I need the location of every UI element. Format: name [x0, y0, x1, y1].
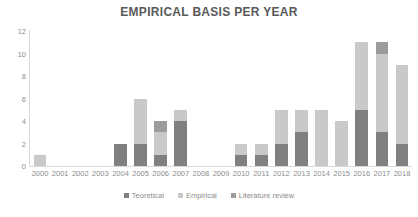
bars-layer — [30, 31, 412, 166]
x-tick-label: 2011 — [251, 169, 271, 178]
bar-segment[interactable] — [134, 99, 147, 144]
bar-slot — [70, 31, 90, 166]
bar-stack[interactable] — [355, 42, 368, 166]
bar-segment[interactable] — [174, 110, 187, 121]
x-tick-label: 2005 — [131, 169, 151, 178]
bar-slot — [110, 31, 130, 166]
y-tick-label: 2 — [2, 139, 26, 148]
bar-segment[interactable] — [235, 155, 248, 166]
bar-slot — [372, 31, 392, 166]
legend-swatch-icon — [178, 193, 183, 198]
bar-stack[interactable] — [255, 144, 268, 167]
legend-label: Literature review — [239, 191, 294, 200]
legend-item[interactable]: Empirical — [178, 191, 217, 200]
bar-segment[interactable] — [335, 121, 348, 166]
bar-stack[interactable] — [295, 110, 308, 166]
bar-segment[interactable] — [154, 121, 167, 132]
bar-segment[interactable] — [174, 121, 187, 166]
x-tick-label: 2006 — [151, 169, 171, 178]
bar-stack[interactable] — [34, 155, 47, 166]
legend-swatch-icon — [124, 193, 129, 198]
bar-slot — [131, 31, 151, 166]
bar-stack[interactable] — [235, 144, 248, 167]
x-axis-tick-labels: 2000200120022003200420052006200720082009… — [30, 169, 412, 178]
legend-item[interactable]: Literature review — [231, 191, 294, 200]
bar-stack[interactable] — [396, 65, 409, 166]
x-tick-label: 2003 — [90, 169, 110, 178]
y-tick-label: 4 — [2, 117, 26, 126]
bar-slot — [392, 31, 412, 166]
chart-container: EMPIRICAL BASIS PER YEAR 024681012 20002… — [0, 0, 418, 217]
x-tick-label: 2010 — [231, 169, 251, 178]
bar-slot — [211, 31, 231, 166]
bar-segment[interactable] — [235, 144, 248, 155]
x-tick-label: 2017 — [372, 169, 392, 178]
bar-slot — [171, 31, 191, 166]
bar-stack[interactable] — [114, 144, 127, 167]
bar-slot — [332, 31, 352, 166]
bar-slot — [291, 31, 311, 166]
bar-segment[interactable] — [376, 42, 389, 53]
bar-slot — [271, 31, 291, 166]
x-tick-label: 2014 — [312, 169, 332, 178]
bar-slot — [352, 31, 372, 166]
y-tick-label: 0 — [2, 162, 26, 171]
bar-segment[interactable] — [154, 132, 167, 155]
x-axis-line — [29, 166, 412, 167]
x-tick-label: 2018 — [392, 169, 412, 178]
bar-segment[interactable] — [355, 110, 368, 166]
bar-segment[interactable] — [275, 144, 288, 167]
x-tick-label: 2008 — [191, 169, 211, 178]
bar-segment[interactable] — [134, 144, 147, 167]
bar-slot — [231, 31, 251, 166]
legend-swatch-icon — [231, 193, 236, 198]
bar-slot — [251, 31, 271, 166]
x-tick-label: 2009 — [211, 169, 231, 178]
x-tick-label: 2016 — [352, 169, 372, 178]
y-tick-label: 8 — [2, 72, 26, 81]
y-axis-tick-labels: 024681012 — [0, 31, 26, 166]
legend-label: Empirical — [186, 191, 217, 200]
x-tick-label: 2015 — [332, 169, 352, 178]
bar-segment[interactable] — [396, 144, 409, 167]
bar-stack[interactable] — [376, 42, 389, 166]
bar-slot — [50, 31, 70, 166]
bar-stack[interactable] — [134, 99, 147, 167]
bar-segment[interactable] — [154, 155, 167, 166]
bar-segment[interactable] — [255, 155, 268, 166]
bar-slot — [191, 31, 211, 166]
x-tick-label: 2012 — [271, 169, 291, 178]
bar-slot — [90, 31, 110, 166]
bar-stack[interactable] — [275, 110, 288, 166]
bar-segment[interactable] — [315, 110, 328, 166]
bar-segment[interactable] — [355, 42, 368, 110]
bar-stack[interactable] — [154, 121, 167, 166]
bar-segment[interactable] — [295, 132, 308, 166]
chart-title: EMPIRICAL BASIS PER YEAR — [0, 5, 418, 19]
bar-segment[interactable] — [114, 144, 127, 167]
bar-segment[interactable] — [255, 144, 268, 155]
bar-slot — [30, 31, 50, 166]
x-tick-label: 2000 — [30, 169, 50, 178]
y-tick-label: 10 — [2, 49, 26, 58]
bar-stack[interactable] — [335, 121, 348, 166]
bar-slot — [151, 31, 171, 166]
x-tick-label: 2002 — [70, 169, 90, 178]
bar-slot — [312, 31, 332, 166]
y-tick-label: 12 — [2, 27, 26, 36]
x-tick-label: 2001 — [50, 169, 70, 178]
bar-segment[interactable] — [396, 65, 409, 144]
bar-segment[interactable] — [376, 54, 389, 133]
bar-segment[interactable] — [295, 110, 308, 133]
bar-segment[interactable] — [376, 132, 389, 166]
x-tick-label: 2007 — [171, 169, 191, 178]
bar-segment[interactable] — [34, 155, 47, 166]
x-tick-label: 2013 — [291, 169, 311, 178]
legend-item[interactable]: Teoretical — [124, 191, 164, 200]
bar-segment[interactable] — [275, 110, 288, 144]
legend-label: Teoretical — [132, 191, 164, 200]
x-tick-label: 2004 — [110, 169, 130, 178]
bar-stack[interactable] — [315, 110, 328, 166]
y-tick-label: 6 — [2, 94, 26, 103]
bar-stack[interactable] — [174, 110, 187, 166]
